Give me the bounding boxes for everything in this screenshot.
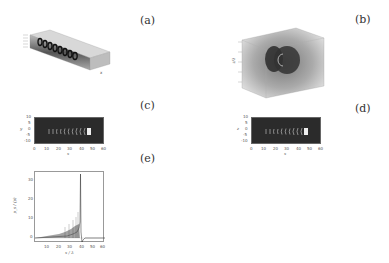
panel-c-plot	[34, 117, 104, 144]
panel-label-a: (a)	[140, 14, 155, 27]
ytick: 20	[28, 196, 33, 201]
vortex-ring-slice-c	[35, 118, 105, 145]
xtick: 60	[101, 146, 106, 151]
xtick: 60	[318, 146, 323, 151]
ytick: 30	[28, 177, 33, 182]
xtick: 50	[90, 244, 95, 249]
xtick: 0	[33, 146, 36, 151]
xtick: 20	[273, 146, 278, 151]
panel-label-b: (b)	[355, 13, 371, 26]
panel-b-volume: z/λ	[236, 26, 328, 104]
panel-e-ylabel: p_s / ⟨p⟩	[12, 197, 17, 213]
cube-box-render	[236, 26, 328, 104]
ytick: -10	[241, 138, 248, 143]
panel-e-xlabel: x / λ	[65, 250, 74, 255]
xtick: 20	[56, 146, 61, 151]
xtick: 50	[90, 146, 95, 151]
ytick: 5	[28, 120, 31, 125]
panel-a-volume: x	[18, 28, 108, 76]
ytick: 10	[243, 114, 248, 119]
panel-d-ylabel: z	[237, 126, 239, 131]
xtick: 60	[100, 244, 105, 249]
ytick: 0	[245, 126, 248, 131]
panel-label-d: (d)	[355, 102, 371, 115]
xtick: 40	[79, 244, 84, 249]
xtick: 0	[250, 146, 253, 151]
ytick: 0	[30, 234, 33, 239]
elongated-box-render	[18, 28, 108, 76]
xtick: 30	[67, 244, 72, 249]
panel-d-xlabel: x	[284, 151, 286, 156]
panel-label-c: (c)	[140, 99, 155, 112]
ytick: 10	[28, 215, 33, 220]
vortex-ring-slice-d	[252, 118, 322, 145]
xtick: 10	[261, 146, 266, 151]
ytick: -5	[243, 132, 247, 137]
ytick: -10	[24, 138, 31, 143]
xtick: 20	[56, 244, 61, 249]
xtick: 10	[44, 244, 49, 249]
panel-c-ylabel: y	[20, 126, 22, 131]
ytick: 0	[28, 126, 31, 131]
xtick: 50	[307, 146, 312, 151]
panel-label-e: (e)	[140, 152, 155, 165]
xtick: 10	[44, 146, 49, 151]
ytick: 5	[245, 120, 248, 125]
panel-c-xlabel: x	[67, 151, 69, 156]
ytick: -5	[26, 132, 30, 137]
axis-label-b-z: z/λ	[231, 58, 236, 64]
ytick: 10	[26, 114, 31, 119]
axis-label-a: x	[100, 70, 102, 75]
panel-d-plot	[251, 117, 321, 144]
pressure-line-chart	[35, 172, 105, 243]
xtick: 40	[296, 146, 301, 151]
xtick: 40	[79, 146, 84, 151]
panel-e-plot	[34, 171, 104, 242]
